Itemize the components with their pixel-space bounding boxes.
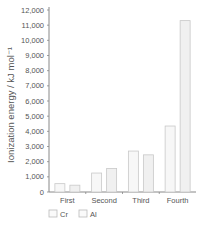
x-tick-label: First — [60, 196, 75, 205]
y-tick-label: 3,000 — [25, 142, 44, 151]
y-tick-label: 1,000 — [25, 172, 44, 181]
y-tick-label: 2,000 — [25, 157, 44, 166]
x-tick-label: Third — [132, 196, 149, 205]
bar-cr-first — [55, 184, 65, 192]
y-tick-label: 12,000 — [21, 6, 44, 15]
bar-cr-fourth — [165, 126, 175, 192]
legend-swatch-cr — [49, 210, 57, 217]
y-tick-label: 11,000 — [22, 21, 44, 30]
legend-swatch-al — [79, 210, 87, 217]
legend-label-cr: Cr — [60, 210, 68, 219]
labels: 01,0002,0003,0004,0005,0006,0007,0008,00… — [21, 6, 188, 206]
bar-al-first — [70, 185, 80, 192]
bar-cr-second — [92, 173, 102, 192]
bar-al-second — [107, 168, 117, 192]
legend: CrAl — [49, 210, 97, 219]
bars — [55, 21, 190, 192]
y-tick-label: 10,000 — [21, 36, 44, 45]
x-tick-label: Fourth — [167, 196, 189, 205]
y-tick-label: 8,000 — [25, 66, 44, 75]
y-tick-label: 7,000 — [25, 81, 44, 90]
y-tick-label: 0 — [40, 188, 44, 197]
y-tick-label: 5,000 — [25, 112, 44, 121]
ionization-energy-chart: 01,0002,0003,0004,0005,0006,0007,0008,00… — [0, 0, 203, 229]
bar-al-third — [143, 155, 153, 192]
y-axis-label: Ionization energy / kJ mol⁻¹ — [5, 47, 16, 163]
y-tick-label: 9,000 — [25, 51, 44, 60]
legend-label-al: Al — [90, 210, 97, 219]
bar-cr-third — [128, 151, 138, 192]
y-tick-label: 4,000 — [25, 127, 44, 136]
x-tick-label: Second — [91, 196, 116, 205]
bar-al-fourth — [180, 21, 190, 192]
y-tick-label: 6,000 — [25, 97, 44, 106]
